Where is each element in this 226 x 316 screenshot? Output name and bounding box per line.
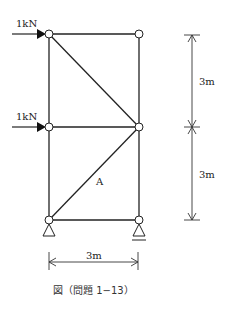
figure-caption: 図（問題 1−13） [53, 285, 134, 296]
dim-label-lower: 3m [199, 169, 215, 180]
member-upper-diagonal [49, 34, 139, 127]
node-mid-right-icon [135, 123, 143, 131]
pin-support-icon [43, 224, 55, 236]
load-label-top: 1kN [16, 18, 37, 29]
dim-label-horizontal: 3m [86, 250, 102, 261]
member-lower-diagonal-A [49, 127, 139, 220]
load-label-mid: 1kN [16, 111, 37, 122]
dim-label-upper: 3m [199, 76, 215, 87]
truss-diagram: 1kN 1kN A 3m 3m 3m 図（問題 1−13） [0, 0, 226, 316]
node-bottom-left-icon [45, 216, 53, 224]
node-top-right-icon [135, 30, 143, 38]
supports [43, 224, 146, 240]
member-label-A: A [95, 176, 104, 187]
truss-members [49, 34, 139, 220]
node-mid-left-icon [45, 123, 53, 131]
vertical-dimension [184, 35, 200, 220]
node-bottom-right-icon [135, 216, 143, 224]
roller-support-icon [133, 224, 145, 236]
node-top-left-icon [45, 30, 53, 38]
